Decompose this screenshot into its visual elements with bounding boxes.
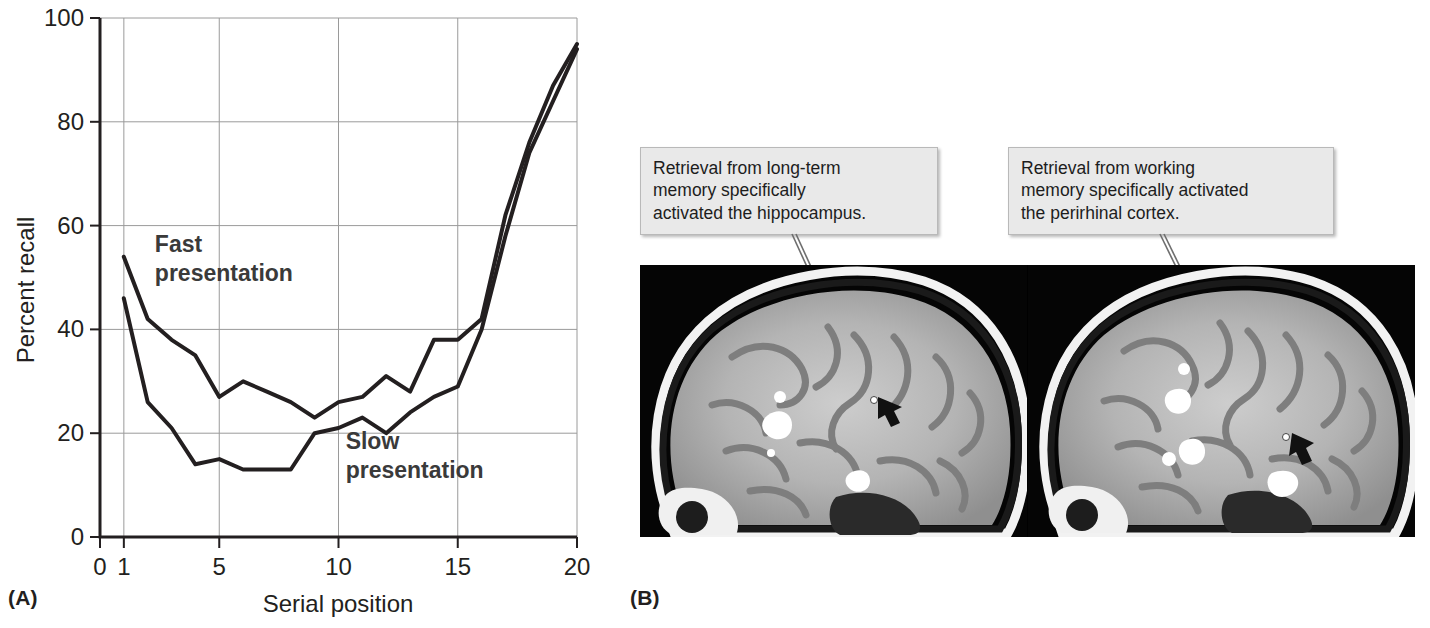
svg-text:Slowpresentation: Slowpresentation xyxy=(346,428,484,483)
y-axis-label: Percent recall xyxy=(12,217,39,364)
svg-text:20: 20 xyxy=(57,419,84,446)
mri-sagittal-left xyxy=(640,265,1027,537)
svg-text:5: 5 xyxy=(213,553,226,580)
svg-text:20: 20 xyxy=(564,553,591,580)
x-axis-label: Serial position xyxy=(263,590,414,617)
chart-annotations: FastpresentationSlowpresentation xyxy=(155,231,484,483)
svg-text:0: 0 xyxy=(93,553,106,580)
svg-text:Fastpresentation: Fastpresentation xyxy=(155,231,293,286)
svg-text:100: 100 xyxy=(44,4,84,31)
chart-tick-labels: 020406080100015101520 xyxy=(44,4,590,580)
serial-position-chart: 020406080100015101520 Percent recall Ser… xyxy=(0,0,620,628)
svg-text:60: 60 xyxy=(57,212,84,239)
chart-series xyxy=(124,44,577,470)
svg-text:80: 80 xyxy=(57,108,84,135)
panel-a-label: (A) xyxy=(8,586,38,610)
svg-text:15: 15 xyxy=(444,553,471,580)
svg-text:40: 40 xyxy=(57,315,84,342)
panel-a-chart: 020406080100015101520 Percent recall Ser… xyxy=(0,0,620,628)
mri-image-panel xyxy=(640,265,1415,537)
svg-text:1: 1 xyxy=(117,553,130,580)
panel-b-label: (B) xyxy=(630,586,660,610)
mri-sagittal-right xyxy=(1028,265,1415,537)
panel-b-mri: Retrieval from long-term memory specific… xyxy=(620,0,1430,628)
svg-text:0: 0 xyxy=(71,523,84,550)
svg-text:10: 10 xyxy=(325,553,352,580)
